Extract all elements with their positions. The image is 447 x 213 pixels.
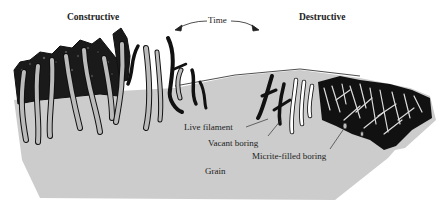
destructive-heading: Destructive — [299, 12, 345, 22]
grain-label: Grain — [205, 167, 226, 176]
vacant-boring-label: Vacant boring — [208, 139, 258, 148]
diagram-canvas — [0, 0, 447, 213]
constructive-heading: Constructive — [67, 12, 119, 22]
time-label: Time — [208, 16, 227, 25]
boring-diagram: Constructive Destructive Time Live filam… — [0, 0, 447, 213]
micrite-filled-boring-label: Micrite-filled boring — [252, 152, 326, 161]
live-filament-label: Live filament — [184, 123, 233, 132]
